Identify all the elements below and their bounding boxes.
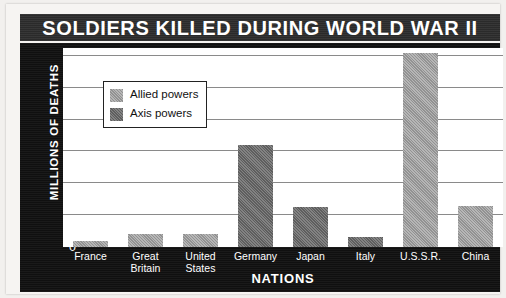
- bar-group: [63, 48, 503, 247]
- bar-slot: [63, 48, 118, 247]
- legend-item-axis: Axis powers: [110, 106, 198, 122]
- legend-label-allied: Allied powers: [130, 89, 198, 101]
- bar-slot: [338, 48, 393, 247]
- x-axis-title: NATIONS: [63, 271, 503, 286]
- chart-paper: SOLDIERS KILLED DURING WORLD WAR II MILL…: [6, 4, 500, 294]
- plot-area: Allied powers Axis powers: [63, 48, 503, 247]
- chart-legend: Allied powers Axis powers: [103, 81, 207, 128]
- bar-slot: [393, 48, 448, 247]
- legend-item-allied: Allied powers: [110, 87, 198, 103]
- chart-title-bar: SOLDIERS KILLED DURING WORLD WAR II: [20, 14, 500, 41]
- bar-germany: [238, 145, 272, 247]
- bar-france: [73, 241, 107, 247]
- bar-japan: [293, 207, 327, 247]
- bar-slot: [283, 48, 338, 247]
- chart-frame: MILLIONS OF DEATHS 0123456 Allied powers…: [20, 43, 500, 292]
- legend-swatch-allied-icon: [110, 89, 123, 102]
- bar-united-states: [183, 234, 217, 247]
- legend-swatch-axis-icon: [110, 108, 123, 121]
- chart-figure: SOLDIERS KILLED DURING WORLD WAR II MILL…: [0, 0, 506, 298]
- chart-title: SOLDIERS KILLED DURING WORLD WAR II: [42, 18, 477, 38]
- bar-italy: [348, 237, 382, 248]
- bar-china: [458, 206, 492, 247]
- bar-great-britain: [128, 234, 162, 247]
- bar-slot: [448, 48, 503, 247]
- bar-slot: [173, 48, 228, 247]
- bar-u-s-s-r: [403, 53, 437, 247]
- bar-slot: [118, 48, 173, 247]
- legend-label-axis: Axis powers: [130, 108, 192, 120]
- bar-slot: [228, 48, 283, 247]
